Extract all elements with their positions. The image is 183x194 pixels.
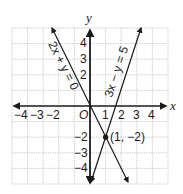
intersection-point	[103, 135, 108, 140]
x-tick-labels: −4 −3 −2 O 1 2 3 4	[14, 108, 155, 122]
y-tick: 2	[80, 68, 87, 82]
coordinate-plane: x y −4 −3 −2 O 1 2 3 4 4 3 2 −2 −3 −4 2x…	[0, 0, 183, 194]
line1-equation-label: 2x + y = 0	[45, 39, 82, 93]
x-tick: 3	[133, 108, 140, 122]
x-tick: −3	[30, 108, 44, 122]
intersection-label: (1, −2)	[110, 130, 145, 144]
x-tick: 1	[102, 108, 109, 122]
x-tick: 4	[148, 108, 155, 122]
y-tick: 4	[80, 36, 87, 50]
y-axis-label: y	[84, 10, 92, 25]
origin-label: O	[79, 108, 88, 122]
y-tick: −3	[74, 146, 88, 160]
x-tick: −4	[14, 108, 28, 122]
y-tick: −2	[74, 130, 88, 144]
y-tick: −4	[74, 161, 88, 175]
x-axis-label: x	[169, 98, 176, 113]
x-tick: −2	[46, 108, 60, 122]
x-tick: 2	[118, 108, 125, 122]
y-tick: 3	[80, 52, 87, 66]
